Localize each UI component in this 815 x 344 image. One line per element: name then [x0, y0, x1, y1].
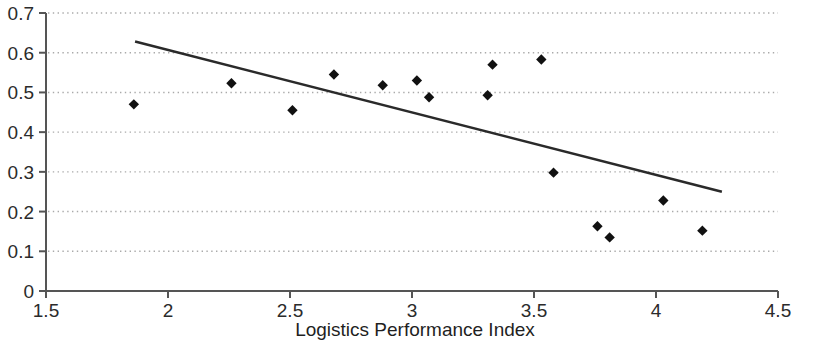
y-tick-label: 0.2 — [8, 202, 34, 223]
y-tick-label: 0.1 — [8, 241, 34, 262]
x-tick-labels: 1.522.533.544.5 — [33, 300, 791, 321]
data-point-marker — [378, 80, 388, 90]
data-points — [129, 54, 708, 242]
x-axis-title: Logistics Performance Index — [295, 319, 535, 340]
x-tick-marks — [46, 291, 778, 298]
data-point-marker — [487, 59, 497, 69]
x-tick-label: 1.5 — [33, 300, 59, 321]
trend-line-segment — [135, 42, 722, 192]
trend-line — [135, 42, 722, 192]
data-point-marker — [697, 225, 707, 235]
data-point-marker — [592, 221, 602, 231]
data-point-marker — [658, 195, 668, 205]
x-tick-label: 3 — [407, 300, 418, 321]
data-point-marker — [604, 232, 614, 242]
y-tick-label: 0.6 — [8, 43, 34, 64]
x-tick-label: 2.5 — [277, 300, 303, 321]
data-point-marker — [424, 92, 434, 102]
y-tick-marks — [39, 13, 46, 291]
y-tick-label: 0.5 — [8, 82, 34, 103]
y-tick-label: 0.7 — [8, 3, 34, 24]
gridlines — [48, 13, 778, 251]
data-point-marker — [129, 99, 139, 109]
axes — [46, 13, 778, 291]
y-tick-label: 0.3 — [8, 162, 34, 183]
y-tick-label: 0.4 — [8, 122, 35, 143]
data-point-marker — [287, 105, 297, 115]
scatter-chart: 1.522.533.544.5 00.10.20.30.40.50.60.7 L… — [0, 0, 815, 344]
data-point-marker — [226, 78, 236, 88]
data-point-marker — [412, 75, 422, 85]
data-point-marker — [548, 167, 558, 177]
data-point-marker — [536, 54, 546, 64]
y-tick-labels: 00.10.20.30.40.50.60.7 — [8, 3, 35, 302]
data-point-marker — [482, 90, 492, 100]
y-tick-label: 0 — [23, 281, 34, 302]
x-tick-label: 2 — [163, 300, 174, 321]
data-point-marker — [329, 69, 339, 79]
x-tick-label: 3.5 — [521, 300, 547, 321]
x-tick-label: 4 — [651, 300, 662, 321]
chart-canvas: 1.522.533.544.5 00.10.20.30.40.50.60.7 L… — [0, 0, 815, 344]
x-tick-label: 4.5 — [765, 300, 791, 321]
